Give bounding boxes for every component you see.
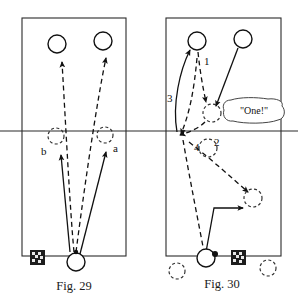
label-4: 4 — [194, 141, 200, 153]
shuttle-path-to-right-opponent — [76, 58, 106, 252]
opponent-left-circle-fig30 — [188, 32, 206, 50]
base-left-circle — [169, 263, 185, 279]
caption-fig29: Fig. 29 — [56, 279, 91, 293]
opponent-right-circle-fig29 — [94, 32, 112, 50]
label-3: 3 — [167, 92, 173, 104]
shuttle-dot-fig30 — [212, 251, 218, 257]
speech-bubble-label: "One!" — [240, 105, 268, 116]
figure-29: b a Fig. 29 — [0, 18, 149, 293]
player-move-to-a — [80, 152, 106, 254]
midcourt-target-circle — [244, 189, 262, 207]
diagram-canvas: b a Fig. 29 — [0, 0, 298, 304]
caption-fig30: Fig. 30 — [204, 277, 239, 291]
player-move-bent-path — [206, 208, 243, 252]
figure-30: 1 2 3 4 "One!" Fig. 30 — [149, 18, 298, 291]
label-2: 2 — [214, 136, 220, 148]
target-a-circle — [97, 127, 113, 143]
label-a: a — [113, 142, 118, 154]
shuttle-marker-icon-fig30 — [231, 250, 246, 265]
player-move-to-b — [61, 155, 70, 252]
label-1: 1 — [204, 55, 210, 67]
opponent-right-circle-fig30 — [234, 30, 252, 48]
court-outline-fig30 — [166, 18, 281, 256]
player-recover-path-4 — [181, 58, 197, 134]
server-circle-fig29 — [67, 253, 85, 271]
opponent-approach-path — [216, 48, 238, 106]
court-outline-fig29 — [22, 18, 126, 256]
player-rush-path-3 — [175, 50, 190, 132]
opponent-left-circle-fig29 — [48, 35, 66, 53]
speech-bubble-one: "One!" — [223, 98, 284, 124]
shuttle-dot-fig29 — [74, 250, 78, 254]
server-track-path — [183, 140, 204, 252]
figures-root: b a Fig. 29 — [0, 0, 298, 304]
shuttle-marker-icon-fig29 — [30, 250, 45, 265]
base-right-circle — [260, 260, 276, 276]
shuttle-drop-zone-circle — [203, 104, 221, 122]
server-circle-fig30 — [197, 249, 215, 267]
label-b: b — [41, 145, 47, 157]
